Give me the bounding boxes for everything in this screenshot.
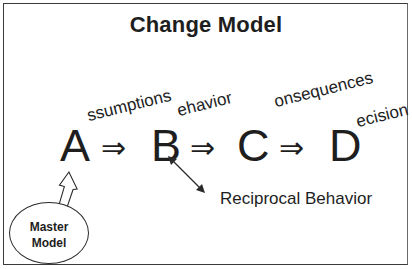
master-model-label: Master Model	[9, 219, 89, 251]
double-headed-arrow-icon	[168, 156, 205, 193]
reciprocal-behavior-label: Reciprocal Behavior	[220, 189, 372, 209]
master-model-line1: Master	[9, 219, 89, 235]
master-model-line2: Model	[9, 235, 89, 251]
